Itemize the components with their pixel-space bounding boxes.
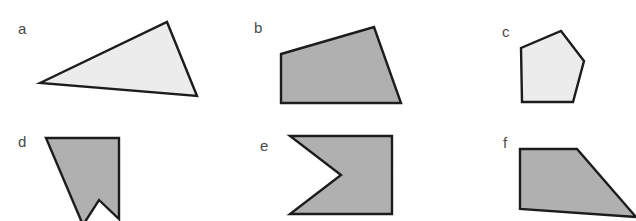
shape-f-polygon[interactable] bbox=[520, 149, 636, 217]
shape-label-d: d bbox=[18, 133, 26, 150]
shape-c-polygon[interactable] bbox=[521, 31, 584, 102]
shape-group-b: b bbox=[254, 19, 401, 103]
shape-label-a: a bbox=[18, 20, 27, 37]
shape-group-d: d bbox=[18, 133, 119, 221]
shape-label-e: e bbox=[260, 137, 268, 154]
shape-label-b: b bbox=[254, 19, 262, 36]
shape-group-e: e bbox=[260, 136, 392, 214]
shape-d-polygon[interactable] bbox=[46, 138, 119, 221]
shape-a-polygon[interactable] bbox=[40, 22, 197, 96]
shape-b-polygon[interactable] bbox=[281, 27, 401, 103]
shape-group-a: a bbox=[18, 20, 197, 96]
figure-canvas: a b c d e f bbox=[0, 0, 636, 221]
shape-label-c: c bbox=[502, 23, 510, 40]
shape-group-c: c bbox=[502, 23, 584, 102]
shape-e-polygon[interactable] bbox=[290, 136, 392, 214]
shape-group-f: f bbox=[503, 134, 636, 217]
shapes-diagram: a b c d e f bbox=[0, 0, 636, 221]
shape-label-f: f bbox=[503, 134, 508, 151]
